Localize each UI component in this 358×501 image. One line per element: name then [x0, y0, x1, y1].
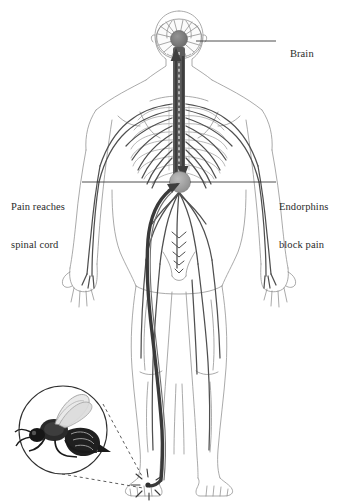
label-brain: Brain: [279, 35, 314, 73]
label-pain-line2: spinal cord: [11, 239, 65, 252]
label-pain-line1: Pain reaches: [11, 201, 65, 214]
figure-canvas: Brain Pain reaches spinal cord Endorphin…: [0, 0, 358, 501]
ankle-nerve-tail: [149, 480, 161, 486]
label-endorphins-block-pain: Endorphins block pain: [279, 176, 328, 276]
bee-callout-line-upper: [103, 404, 143, 478]
bee-callout-line-lower: [62, 474, 143, 488]
label-brain-text: Brain: [290, 48, 314, 59]
sciatic-pain-nerve: [147, 190, 170, 480]
bee-magnifier-inset: [15, 386, 111, 474]
label-endorphins-line1: Endorphins: [279, 201, 328, 214]
brain-node: [171, 31, 188, 48]
spinal-cord: [171, 47, 189, 182]
label-pain-reaches-spinal-cord: Pain reaches spinal cord: [11, 176, 65, 276]
label-endorphins-line2: block pain: [279, 239, 328, 252]
